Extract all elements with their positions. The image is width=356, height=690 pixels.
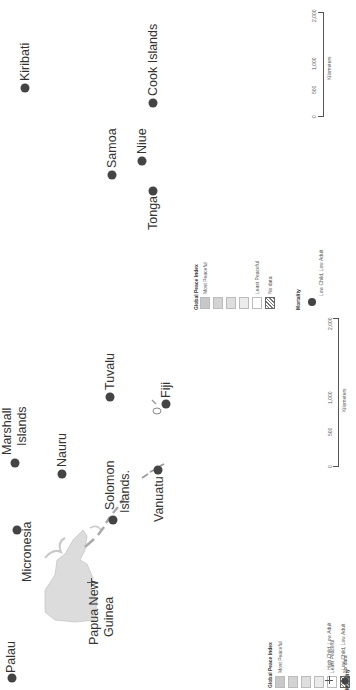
cook-islands-marker [149,99,158,108]
right-swatch-1 [200,297,210,309]
label-papua-new-guinea-line2: Guinea [103,597,116,637]
right-least-peaceful-label: Least Peaceful [254,261,260,294]
fiji-marker [162,400,171,409]
scale-middle-tick-500: 500 [327,428,333,436]
right-swatch-3 [226,297,236,309]
left-swatch-2 [288,676,298,688]
label-solomon-islands: Solomon [104,461,117,510]
left-swatch-1 [275,676,285,688]
right-swatch-no-data [265,297,275,309]
label-marshall-islands: Marshall [1,408,14,455]
right-mortality-dot-icon [308,298,316,306]
right-mortality-title: Mortality [295,289,301,310]
samoa-marker [108,171,117,180]
label-cook-islands: Cook Islands [147,24,160,96]
label-niue: Niue [136,128,149,154]
vanuatu-marker [154,466,163,475]
label-tuvalu: Tuvalu [104,353,117,390]
tonga-marker [149,187,158,196]
scale-bar-middle-end-0 [333,466,339,467]
scale-top-tick-0: 0 [311,115,317,118]
scale-top-tick-1000: 1,000 [311,57,317,70]
right-peace-legend-title: Global Peace Index [193,264,199,310]
label-tonga: Tonga [147,196,160,230]
right-swatch-4 [239,297,249,309]
tuvalu-marker [106,393,115,402]
right-mortality-item-1: Low Child, Low Adult [318,250,324,296]
kiribati-marker [21,84,30,93]
right-swatch-2 [213,297,223,309]
label-palau: Palau [5,641,18,673]
left-most-peaceful-label: Most Peaceful [277,641,283,673]
right-swatch-5 [252,297,262,309]
scale-bar-middle-end-2000 [333,318,339,319]
legend-dot-icon [342,678,349,685]
left-swatch-4 [314,676,324,688]
label-solomon-islands-line2: Islands. [119,470,132,513]
left-mortality-item-1: High Child, Low Adult [326,622,332,670]
scale-middle-tick-2000: 2,000 [327,317,333,330]
scale-bar-top-end-2000 [318,12,324,13]
scale-bar-top-end-0 [318,116,324,117]
palau-marker [8,674,17,683]
scale-middle-tick-0: 0 [327,465,333,468]
scale-top-tick-2000: 2,000 [311,9,317,22]
label-micronesia: Micronesia [21,522,34,582]
scale-bar-middle-line [338,318,339,466]
right-no-data-label: No data [267,276,273,294]
label-samoa: Samoa [106,128,119,168]
right-most-peaceful-label: Most Peaceful [202,262,208,294]
scale-top-tick-500: 500 [311,86,317,94]
left-mortality-item-2: Low Child, Low Adult [340,624,346,670]
scale-middle-tick-1000: 1,000 [327,391,333,404]
scale-top-unit: Kilometers [326,56,332,80]
label-fiji: Fiji [160,382,173,398]
label-marshall-islands-line2: Islands [16,406,29,446]
marshall-islands-marker [11,459,20,468]
left-peace-legend-title: Global Peace Index [267,642,273,688]
label-vanuatu: Vanuatu [153,476,166,522]
label-nauru: Nauru [56,433,69,467]
niue-marker [138,157,147,166]
scale-bar-top-line [323,12,324,116]
label-papua-new-guinea: Papua New [88,580,101,645]
scale-middle-unit: Kilometers [341,388,347,412]
solomon-islands-marker [109,516,118,525]
nauru-marker [58,470,67,479]
label-kiribati: Kiribati [19,43,32,81]
legend-plus-icon [325,676,333,684]
left-swatch-3 [301,676,311,688]
